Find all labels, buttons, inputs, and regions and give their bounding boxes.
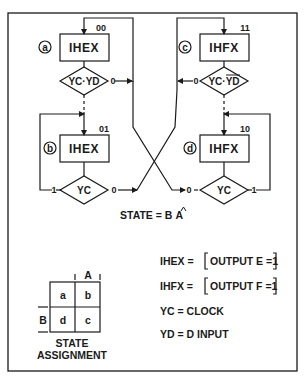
- def-ihex-lhs: IHEX =: [160, 255, 194, 267]
- box-label-a: IHEX: [69, 41, 99, 55]
- exit-label-d-1: 1: [251, 185, 256, 195]
- map-col-header: A: [84, 269, 92, 281]
- exit-label-d-0: 0: [186, 185, 191, 195]
- exit-label-c-0: 0: [193, 76, 198, 86]
- asm-diagram: a b c d 00 01 11 10 IHEX IHEX IHFX IHFX …: [0, 0, 305, 379]
- decision-label-a: YC·YD: [68, 76, 99, 87]
- map-cell-c: c: [85, 314, 91, 326]
- box-label-c: IHFX: [209, 41, 238, 55]
- def-yc: YC = CLOCK: [160, 305, 224, 317]
- exit-label-b-0: 0: [111, 185, 116, 195]
- state-code-c: 11: [240, 23, 250, 33]
- circle-label-b: b: [47, 143, 53, 154]
- circle-label-d: d: [187, 143, 193, 154]
- box-label-d: IHFX: [209, 142, 238, 156]
- flow-line-cross-to-c: [137, 90, 177, 190]
- state-code-a: 00: [96, 23, 106, 33]
- exit-label-a-0: 0: [110, 76, 115, 86]
- decision-label-c: YC·YD: [208, 76, 239, 87]
- map-row-header: B: [39, 314, 47, 326]
- and-caret-icon: [181, 207, 186, 211]
- circle-label-c: c: [182, 42, 188, 53]
- def-yd: YD = D INPUT: [160, 328, 229, 340]
- map-cell-b: b: [85, 289, 91, 301]
- state-code-b: 01: [99, 124, 109, 134]
- circle-label-a: a: [42, 42, 48, 53]
- decision-c-prefix: YC·: [208, 76, 225, 87]
- exit-label-b-1: 1: [51, 185, 56, 195]
- state-eq-suffix: A: [175, 209, 183, 221]
- bracket-left-f: [205, 278, 208, 294]
- decision-label-d: YC: [217, 185, 231, 196]
- def-ihex-rhs: OUTPUT E =1: [210, 255, 278, 267]
- box-label-b: IHEX: [69, 142, 99, 156]
- def-ihfx-lhs: IHFX =: [160, 280, 193, 292]
- decision-c-overbar: YD: [226, 76, 240, 87]
- map-caption-line2: ASSIGNMENT: [37, 349, 108, 361]
- state-code-d: 10: [240, 124, 250, 134]
- map-cell-a: a: [60, 289, 66, 301]
- decision-label-b: YC: [77, 185, 91, 196]
- state-eq-prefix: STATE = B: [120, 209, 173, 221]
- flow-line-into-c: [177, 18, 224, 34]
- def-ihfx-rhs: OUTPUT F =1: [210, 280, 278, 292]
- bracket-left-e: [205, 253, 208, 269]
- state-equation: STATE = BA: [120, 209, 183, 221]
- map-cell-d: d: [60, 314, 66, 326]
- map-caption-line1: STATE: [56, 337, 89, 349]
